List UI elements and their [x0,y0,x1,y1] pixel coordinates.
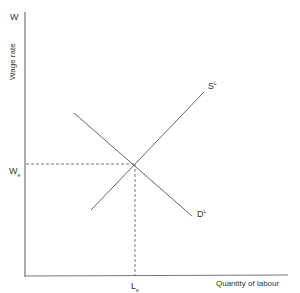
x-axis-label: Quantity of labour [216,279,279,288]
equilibrium-wage-label: We [9,166,20,178]
chart-canvas [0,0,300,293]
equilibrium-qty-label: Le [131,281,139,293]
y-axis-label: Wage rate [8,43,17,80]
y-axis-letter: W [10,12,19,22]
supply-curve [91,92,204,210]
demand-label: DL [197,208,206,219]
supply-label: SL [208,80,217,91]
x-axis [25,275,288,276]
